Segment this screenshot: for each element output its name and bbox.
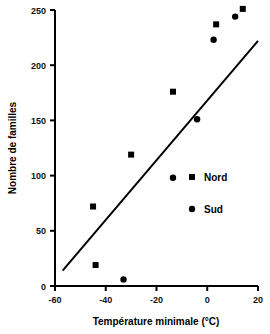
data-point-circle	[210, 37, 216, 43]
data-point-square	[90, 204, 96, 210]
legend-marker-circle	[189, 206, 195, 212]
x-tick-label: 20	[253, 295, 263, 305]
data-point-circle	[194, 116, 200, 122]
series-sud-markers	[120, 13, 238, 282]
x-tick-label: -60	[48, 295, 61, 305]
y-tick-label: 200	[31, 61, 46, 71]
trend-line	[63, 41, 258, 271]
y-tick-label: 250	[31, 6, 46, 16]
y-tick-label: 150	[31, 116, 46, 126]
legend: NordSud	[189, 172, 228, 215]
data-point-circle	[170, 175, 176, 181]
data-point-square	[128, 152, 134, 158]
y-axis-tick-labels: 050100150200250	[31, 6, 46, 292]
regression-line	[63, 41, 258, 271]
data-point-circle	[232, 13, 238, 19]
x-tick-label: -40	[99, 295, 112, 305]
data-point-square	[93, 262, 99, 268]
legend-marker-square	[189, 174, 195, 180]
y-axis-title: Nombre de familles	[7, 101, 18, 194]
plot-canvas: 050100150200250 -60-40-20020 NordSud Tem…	[0, 0, 270, 334]
y-tick-label: 50	[36, 226, 46, 236]
x-tick-label: -20	[150, 295, 163, 305]
x-axis-tick-labels: -60-40-20020	[48, 295, 263, 305]
legend-label: Sud	[204, 204, 223, 215]
data-point-circle	[120, 276, 126, 282]
scatter-plot-figure: 050100150200250 -60-40-20020 NordSud Tem…	[0, 0, 270, 334]
y-tick-label: 0	[41, 282, 46, 292]
x-tick-label: 0	[205, 295, 210, 305]
legend-label: Nord	[204, 172, 227, 183]
data-point-square	[170, 89, 176, 95]
y-tick-label: 100	[31, 171, 46, 181]
data-point-square	[240, 6, 246, 12]
x-axis-title: Température minimale (°C)	[93, 316, 220, 327]
series-nord-markers	[90, 6, 246, 268]
data-point-square	[213, 21, 219, 27]
